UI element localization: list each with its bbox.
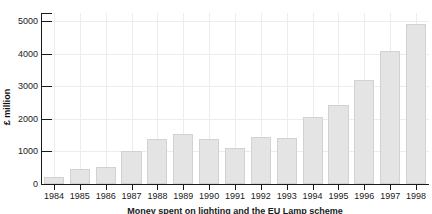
x-axis-tick-mark: [364, 185, 365, 190]
bar: [121, 151, 141, 184]
x-axis-tick-mark: [132, 185, 133, 190]
y-axis-tick-label: 3000: [10, 82, 38, 91]
y-axis-tick-labels: 010002000300040005000: [8, 0, 38, 214]
x-axis-tick-mark: [209, 185, 210, 190]
x-axis-tick-label: 1988: [147, 191, 167, 201]
bar: [70, 169, 90, 184]
bar: [225, 148, 245, 184]
figure-caption: Money spent on lighting and the EU Lamp …: [41, 206, 429, 214]
bar: [380, 51, 400, 184]
x-axis-tick-label: 1985: [70, 191, 90, 201]
x-axis-tick-mark: [80, 185, 81, 190]
x-axis-tick-mark: [261, 185, 262, 190]
x-axis-tick-mark: [338, 185, 339, 190]
x-axis-tick-label: 1995: [328, 191, 348, 201]
bar: [328, 105, 348, 184]
y-axis-tick-label: 4000: [10, 49, 38, 58]
x-axis-tick-label: 1991: [225, 191, 245, 201]
x-axis-tick-mark: [106, 185, 107, 190]
bar: [199, 139, 219, 184]
axis-spine-top-tick: [41, 13, 52, 14]
y-axis-tick-mark: [42, 119, 52, 120]
bar-chart-figure: £ million 010002000300040005000 19841985…: [0, 0, 432, 214]
x-axis-tick-mark: [287, 185, 288, 190]
x-axis-tick-label: 1997: [380, 191, 400, 201]
bar: [277, 138, 297, 184]
bar: [147, 139, 167, 184]
axis-spine-left: [41, 13, 42, 185]
bar: [406, 24, 426, 184]
x-axis-tick-mark: [183, 185, 184, 190]
x-axis-tick-mark: [390, 185, 391, 190]
x-axis-tick-label: 1996: [354, 191, 374, 201]
x-axis-tick-mark: [416, 185, 417, 190]
x-axis-tick-label: 1998: [406, 191, 426, 201]
x-axis-tick-label: 1984: [44, 191, 64, 201]
y-axis-tick-label: 5000: [10, 17, 38, 26]
x-axis-tick-mark: [157, 185, 158, 190]
gridline-vertical: [54, 13, 55, 185]
bar: [354, 80, 374, 184]
x-axis-tick-label: 1990: [199, 191, 219, 201]
x-axis-tick-label: 1987: [122, 191, 142, 201]
x-axis-tick-mark: [313, 185, 314, 190]
x-axis-tick-mark: [235, 185, 236, 190]
y-axis-tick-mark: [42, 86, 52, 87]
x-axis-tick-label: 1993: [277, 191, 297, 201]
y-axis-tick-mark: [42, 151, 52, 152]
x-axis-tick-label: 1992: [251, 191, 271, 201]
bar: [44, 177, 64, 184]
bar: [173, 134, 193, 184]
x-axis-tick-mark: [54, 185, 55, 190]
bar: [96, 167, 116, 184]
y-axis-tick-mark: [42, 54, 52, 55]
x-axis-tick-label: 1994: [303, 191, 323, 201]
x-axis-tick-label: 1986: [96, 191, 116, 201]
bar: [251, 137, 271, 184]
y-axis-tick-label: 1000: [10, 147, 38, 156]
gridline-vertical: [106, 13, 107, 185]
x-axis-tick-label: 1989: [173, 191, 193, 201]
y-axis-tick-mark: [42, 184, 52, 185]
y-axis-tick-label: 0: [10, 180, 38, 189]
y-axis-tick-label: 2000: [10, 114, 38, 123]
gridline-vertical: [80, 13, 81, 185]
bar: [303, 117, 323, 184]
y-axis-tick-mark: [42, 21, 52, 22]
